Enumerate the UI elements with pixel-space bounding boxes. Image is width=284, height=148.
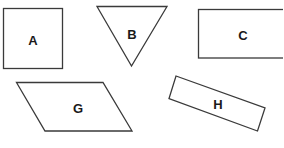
label-a: A — [28, 33, 38, 48]
label-c: C — [238, 28, 248, 43]
shape-g: G — [17, 83, 133, 132]
shape-a: A — [4, 9, 63, 69]
shape-h: H — [169, 76, 265, 131]
label-g: G — [73, 101, 83, 116]
shape-c: C — [199, 10, 284, 59]
shapes-diagram: A B C G H — [0, 0, 283, 148]
label-h: H — [213, 97, 222, 112]
label-b: B — [127, 27, 136, 42]
shape-b: B — [97, 7, 167, 67]
